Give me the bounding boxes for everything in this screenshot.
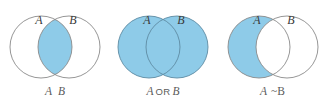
caption-operator: OR (154, 86, 173, 97)
caption-right-operand: B (172, 85, 179, 97)
venn-graphic-or: A B (108, 10, 218, 84)
venn-panel-or: A B AORB (108, 0, 218, 109)
circle-a-letter: A (142, 13, 151, 27)
caption-right-operand: B (58, 85, 65, 97)
caption-right-operand: ~B (267, 85, 285, 97)
venn-graphic-and: A B (0, 10, 110, 84)
circle-b-letter: B (69, 13, 77, 27)
circle-a-letter: A (34, 13, 43, 27)
venn-panel-difference: A B A~B (216, 0, 329, 109)
circle-b-letter: B (177, 13, 185, 27)
caption-difference: A~B (216, 84, 329, 98)
venn-panel-and: A B AB (0, 0, 110, 109)
venn-graphic-difference: A B (216, 10, 329, 84)
venn-diagram-figure: A B AB A B AORB (0, 0, 329, 109)
circle-b-letter: B (287, 13, 295, 27)
caption-or: AORB (108, 84, 218, 99)
circle-a-letter: A (252, 13, 261, 27)
caption-and: AB (0, 84, 110, 98)
caption-left-operand: A (147, 85, 154, 97)
caption-left-operand: A (260, 85, 267, 97)
caption-left-operand: A (45, 85, 52, 97)
